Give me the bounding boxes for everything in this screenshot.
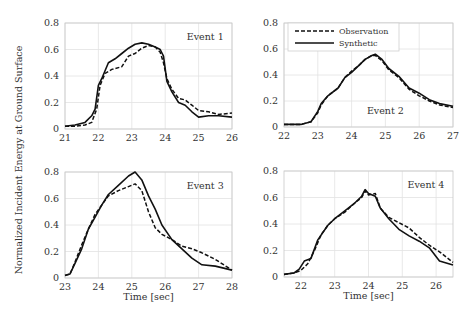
event-label: Event 2 — [367, 105, 404, 116]
subplot-event-3: 23242526272800.20.40.60.8Event 3Time [se… — [44, 166, 238, 302]
y-tick-label: 0 — [272, 121, 278, 132]
x-tick-label: 25 — [379, 130, 391, 141]
y-tick-label: 0.6 — [263, 43, 278, 54]
y-tick-label: 0.2 — [44, 246, 59, 257]
x-tick-label: 24 — [159, 132, 171, 143]
y-tick-label: 0.6 — [44, 44, 59, 55]
legend-observation-label: Observation — [339, 27, 388, 36]
y-tick-label: 0.4 — [263, 218, 278, 229]
y-tick-label: 0.8 — [44, 166, 59, 177]
x-tick-label: 26 — [413, 130, 425, 141]
y-tick-label: 0 — [53, 123, 59, 134]
y-tick-label: 0.8 — [263, 17, 278, 28]
legend-synthetic-label: Synthetic — [339, 39, 378, 48]
y-tick-label: 0.8 — [44, 17, 59, 28]
y-axis-label: Normalized Incident Energy at Ground Sur… — [13, 45, 24, 274]
x-tick-label: 28 — [226, 281, 238, 292]
x-tick-label: 26 — [226, 132, 238, 143]
x-tick-label: 26 — [430, 280, 442, 291]
legend: ObservationSynthetic — [288, 23, 399, 51]
y-tick-label: 0.2 — [44, 97, 59, 108]
figure: Normalized Incident Energy at Ground Sur… — [0, 0, 475, 322]
event-label: Event 4 — [407, 179, 444, 190]
y-tick-label: 0.4 — [44, 70, 59, 81]
x-tick-label: 27 — [447, 130, 459, 141]
y-tick-label: 0.2 — [263, 245, 278, 256]
event-label: Event 1 — [187, 31, 224, 42]
y-tick-label: 0 — [272, 271, 278, 282]
x-tick-label: 23 — [59, 281, 71, 292]
subplots: 21222324252600.20.40.60.8Event 122232425… — [44, 17, 459, 302]
x-tick-label: 22 — [295, 280, 307, 291]
x-axis-label: Time [sec] — [123, 291, 173, 302]
x-tick-label: 24 — [92, 281, 104, 292]
x-tick-label: 22 — [92, 132, 104, 143]
x-tick-label: 23 — [312, 130, 324, 141]
x-tick-label: 23 — [329, 280, 341, 291]
x-axis-label: Time [sec] — [343, 290, 393, 301]
y-tick-label: 0.6 — [44, 193, 59, 204]
observation-line — [65, 46, 232, 127]
y-tick-label: 0 — [53, 272, 59, 283]
event-label: Event 3 — [187, 180, 224, 191]
x-tick-label: 21 — [59, 132, 71, 143]
subplot-event-2: 22232425262700.20.40.60.8Event 2Observat… — [263, 17, 459, 141]
y-tick-label: 0.8 — [263, 165, 278, 176]
x-tick-label: 24 — [346, 130, 358, 141]
y-tick-label: 0.2 — [263, 95, 278, 106]
subplot-event-1: 21222324252600.20.40.60.8Event 1 — [44, 17, 238, 143]
y-tick-label: 0.6 — [263, 192, 278, 203]
x-tick-label: 25 — [396, 280, 408, 291]
synthetic-line — [65, 43, 232, 126]
subplot-event-4: 222324252600.20.40.60.8Event 4Time [sec] — [263, 165, 453, 301]
x-tick-label: 22 — [278, 130, 290, 141]
x-tick-label: 27 — [193, 281, 205, 292]
y-tick-label: 0.4 — [44, 219, 59, 230]
x-tick-label: 23 — [126, 132, 138, 143]
y-tick-label: 0.4 — [263, 69, 278, 80]
x-tick-label: 25 — [193, 132, 205, 143]
